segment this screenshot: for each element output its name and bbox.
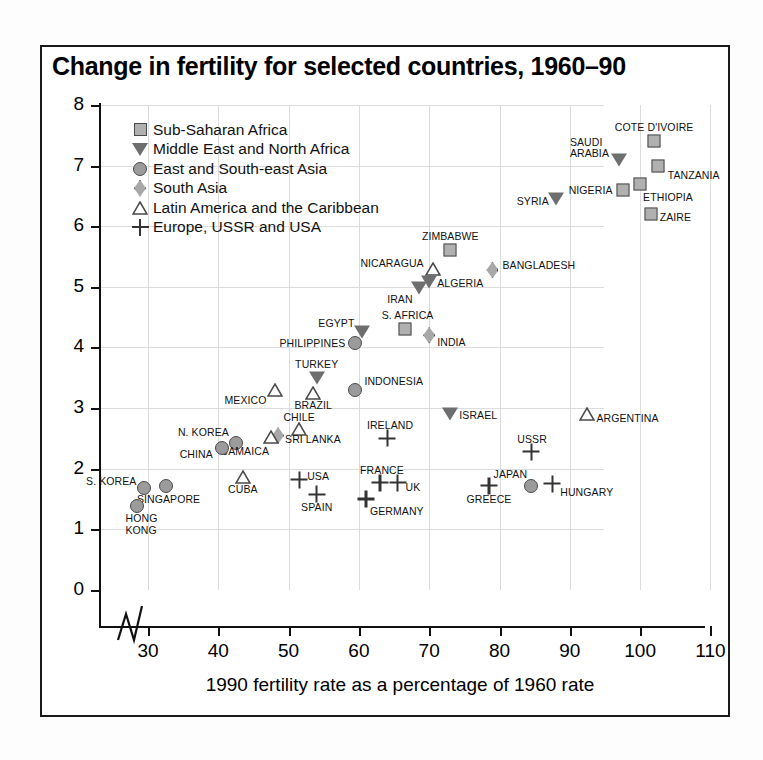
marker-triangle-down <box>548 192 564 205</box>
data-point[interactable] <box>544 475 561 492</box>
gridline-horizontal <box>100 529 604 530</box>
data-point-label: BRAZIL <box>295 399 332 410</box>
legend-item-middle-east-north-africa[interactable]: Middle East and North Africa <box>130 140 379 160</box>
data-point-label: CHILE <box>283 412 314 423</box>
data-point[interactable] <box>524 479 538 493</box>
marker-plus <box>132 219 149 236</box>
data-point[interactable] <box>486 261 498 278</box>
data-point[interactable] <box>425 262 441 276</box>
data-point[interactable] <box>444 244 457 257</box>
data-point[interactable] <box>634 177 647 190</box>
gridline-horizontal <box>100 469 604 470</box>
marker-square <box>616 183 629 196</box>
data-point[interactable] <box>348 336 362 350</box>
marker-triangle-up <box>263 430 279 444</box>
data-point[interactable] <box>579 407 595 421</box>
y-axis-tick-label: 7 <box>58 154 84 176</box>
gridline-horizontal <box>100 287 604 288</box>
marker-triangle-up <box>579 407 595 421</box>
data-point-label: ISRAEL <box>459 410 497 421</box>
data-point[interactable] <box>348 383 362 397</box>
data-point[interactable] <box>644 208 657 221</box>
data-point-label: ARGENTINA <box>596 413 658 424</box>
data-point[interactable] <box>651 159 664 172</box>
data-point-label: UK <box>406 481 421 492</box>
data-point[interactable] <box>309 371 325 384</box>
data-point-label: USSR <box>517 433 547 444</box>
y-axis-tick-label: 6 <box>58 214 84 236</box>
legend-item-south-asia[interactable]: South Asia <box>130 179 379 199</box>
x-axis-label: 1990 fertility rate as a percentage of 1… <box>206 674 595 696</box>
chart-page: Change in fertility for selected countri… <box>0 0 763 760</box>
x-axis-tick <box>289 626 291 636</box>
data-point[interactable] <box>423 327 435 344</box>
data-point[interactable] <box>215 441 229 455</box>
legend-item-east-southeast-asia[interactable]: East and South-east Asia <box>130 159 379 179</box>
legend-item-latin-america-caribbean[interactable]: Latin America and the Caribbean <box>130 198 379 218</box>
data-point[interactable] <box>137 481 151 495</box>
data-point-label: SRI LANKA <box>285 434 341 445</box>
data-point-label: IRAN <box>387 294 413 305</box>
data-point-label: N. KOREA <box>178 427 229 438</box>
legend-label: Latin America and the Caribbean <box>153 199 379 217</box>
marker-plus <box>291 471 308 488</box>
marker-square <box>398 323 411 336</box>
data-point-label: JAMAICA <box>223 446 269 457</box>
data-point[interactable] <box>267 383 283 397</box>
marker-square <box>644 208 657 221</box>
data-point[interactable] <box>442 408 458 421</box>
marker-circle <box>348 336 362 350</box>
data-point-label: INDIA <box>437 337 466 348</box>
data-point-label: GERMANY <box>370 506 424 517</box>
data-point-label: USA <box>307 470 329 481</box>
data-point-label: TURKEY <box>295 358 338 369</box>
data-point[interactable] <box>291 471 308 488</box>
legend-label: Middle East and North Africa <box>153 140 349 158</box>
y-axis-tick-label: 4 <box>58 335 84 357</box>
marker-square <box>134 123 147 136</box>
data-point-label: MEXICO <box>225 394 267 405</box>
data-point[interactable] <box>616 183 629 196</box>
data-point[interactable] <box>611 153 627 166</box>
data-point-label: ZAIRE <box>660 212 691 223</box>
data-point[interactable] <box>548 192 564 205</box>
data-point-label: EGYPT <box>318 318 354 329</box>
data-point[interactable] <box>398 323 411 336</box>
data-point[interactable] <box>379 430 396 447</box>
data-point-label: INDONESIA <box>364 375 423 386</box>
legend-marker <box>130 199 150 217</box>
legend-item-sub-saharan-africa[interactable]: Sub-Saharan Africa <box>130 120 379 140</box>
y-axis-tick-label: 1 <box>58 517 84 539</box>
data-point[interactable] <box>371 474 388 491</box>
chart-title: Change in fertility for selected countri… <box>52 52 712 81</box>
x-axis-tick-label: 70 <box>419 640 440 662</box>
data-point[interactable] <box>411 282 427 295</box>
data-point-label: HONGKONG <box>126 513 158 536</box>
data-point[interactable] <box>523 443 540 460</box>
x-axis-tick <box>640 626 642 636</box>
data-point-label: GREECE <box>466 493 511 504</box>
legend-marker <box>130 140 150 158</box>
data-point-label: HUNGARY <box>560 486 613 497</box>
legend-label: East and South-east Asia <box>153 160 327 178</box>
data-point-label: SYRIA <box>517 195 549 206</box>
data-point[interactable] <box>263 430 279 444</box>
marker-triangle-up <box>132 201 148 215</box>
gridline-horizontal <box>100 105 604 106</box>
marker-plus <box>544 475 561 492</box>
marker-triangle-down <box>132 143 148 156</box>
marker-diamond <box>486 261 498 278</box>
marker-triangle-up <box>267 383 283 397</box>
data-point[interactable] <box>648 135 661 148</box>
data-point[interactable] <box>389 474 406 491</box>
data-point-label: ALGERIA <box>437 278 483 289</box>
marker-circle <box>215 441 229 455</box>
data-point-label: NIGERIA <box>569 184 613 195</box>
marker-plus <box>379 430 396 447</box>
marker-circle <box>137 481 151 495</box>
marker-square <box>648 135 661 148</box>
legend-label: South Asia <box>153 179 227 197</box>
legend-item-europe-ussr-usa[interactable]: Europe, USSR and USA <box>130 218 379 238</box>
axis-break-mark <box>116 600 148 644</box>
data-point[interactable] <box>159 479 173 493</box>
